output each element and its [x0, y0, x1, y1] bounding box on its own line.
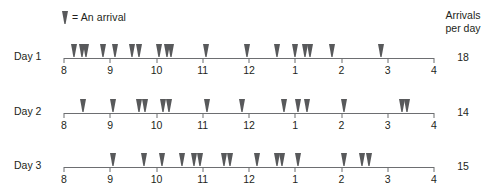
- timeline-axis-2: 891011121234: [64, 93, 434, 139]
- arrival-marker-icon: [341, 99, 347, 112]
- arrival-marker-icon: [254, 153, 260, 166]
- arrivals-count-1: 18: [438, 51, 488, 64]
- arrival-marker-icon: [71, 44, 77, 57]
- arrival-marker-icon: [359, 153, 365, 166]
- axis-tick-label: 10: [151, 119, 163, 132]
- arrival-marker-icon: [136, 99, 142, 112]
- axis-tick: [202, 167, 203, 172]
- axis-tick: [156, 167, 157, 172]
- arrival-marker-icon: [244, 44, 250, 57]
- axis-tick: [387, 113, 388, 118]
- arrival-marker-icon: [168, 44, 174, 57]
- axis-tick: [64, 167, 65, 172]
- axis-tick-label: 2: [339, 119, 345, 132]
- arrivals-count-2: 14: [438, 106, 488, 119]
- axis-tick: [387, 58, 388, 63]
- axis-tick-label: 12: [243, 119, 255, 132]
- arrival-marker-icon: [136, 44, 142, 57]
- arrival-marker-icon: [197, 153, 203, 166]
- axis-tick: [295, 58, 296, 63]
- legend-label: = An arrival: [72, 11, 126, 23]
- axis-tick: [110, 113, 111, 118]
- arrival-marker-icon: [295, 99, 301, 112]
- arrival-marker-icon: [141, 153, 147, 166]
- axis-tick: [341, 58, 342, 63]
- axis-tick: [249, 167, 250, 172]
- arrival-marker-icon: [129, 44, 135, 57]
- arrival-marker-icon: [239, 99, 245, 112]
- day-label-2: Day 2: [14, 105, 60, 118]
- axis-tick-label: 3: [385, 64, 391, 77]
- arrival-marker-icon: [142, 99, 148, 112]
- axis-tick: [156, 113, 157, 118]
- arrival-marker-icon: [304, 99, 310, 112]
- axis-tick-label: 9: [107, 64, 113, 77]
- arrival-marker-icon: [80, 99, 86, 112]
- axis-tick-label: 10: [151, 64, 163, 77]
- axis-tick-label: 4: [431, 64, 437, 77]
- axis-tick: [434, 58, 435, 63]
- arrival-marker-icon: [274, 44, 280, 57]
- arrival-marker-icon: [307, 44, 313, 57]
- axis-tick-label: 4: [431, 119, 437, 132]
- arrival-marker-icon: [110, 99, 116, 112]
- axis-tick-label: 9: [107, 173, 113, 186]
- axis-tick: [64, 58, 65, 63]
- arrival-marker-icon: [159, 153, 165, 166]
- axis-tick-label: 1: [292, 173, 298, 186]
- axis-tick: [434, 113, 435, 118]
- axis-tick: [341, 113, 342, 118]
- timeline-axis-3: 891011121234: [64, 147, 434, 193]
- arrivals-header-line1: Arrivals: [438, 9, 488, 22]
- arrival-marker-icon: [156, 44, 162, 57]
- axis-tick-label: 9: [107, 119, 113, 132]
- axis-tick: [249, 58, 250, 63]
- axis-tick: [110, 58, 111, 63]
- day-row-2: Day 2 891011121234 14: [0, 93, 488, 139]
- axis-tick: [110, 167, 111, 172]
- axis-tick-label: 3: [385, 119, 391, 132]
- arrival-marker-icon: [179, 153, 185, 166]
- axis-tick-label: 11: [197, 119, 208, 132]
- arrival-marker-icon: [100, 44, 106, 57]
- axis-tick-label: 12: [243, 173, 255, 186]
- arrivals-timeline-chart: = An arrival Arrivals per day Day 1 8910…: [0, 0, 488, 194]
- axis-tick-label: 11: [197, 64, 208, 77]
- arrival-marker-icon: [329, 44, 335, 57]
- arrival-marker-icon: [204, 99, 210, 112]
- arrival-marker-icon: [404, 99, 410, 112]
- axis-tick: [295, 113, 296, 118]
- arrival-marker-icon: [227, 153, 233, 166]
- arrivals-count-3: 15: [438, 160, 488, 173]
- axis-tick-label: 11: [197, 173, 208, 186]
- axis-tick-label: 2: [339, 64, 345, 77]
- arrival-marker-icon: [110, 153, 116, 166]
- axis-tick: [64, 113, 65, 118]
- axis-tick-label: 10: [151, 173, 163, 186]
- axis-tick-label: 8: [61, 173, 67, 186]
- arrivals-header-line2: per day: [438, 22, 488, 35]
- arrival-marker-icon: [292, 44, 298, 57]
- arrival-marker-icon: [166, 99, 172, 112]
- axis-tick-label: 2: [339, 173, 345, 186]
- axis-tick-label: 8: [61, 64, 67, 77]
- arrival-marker-icon: [295, 153, 301, 166]
- axis-tick: [156, 58, 157, 63]
- axis-tick-label: 3: [385, 173, 391, 186]
- axis-tick: [249, 113, 250, 118]
- legend: = An arrival: [62, 10, 126, 23]
- day-row-3: Day 3 891011121234 15: [0, 147, 488, 193]
- arrival-marker-icon: [366, 153, 372, 166]
- arrival-marker-icon: [62, 11, 68, 24]
- axis-tick-label: 1: [292, 64, 298, 77]
- arrival-marker-icon: [203, 44, 209, 57]
- arrival-marker-icon: [281, 99, 287, 112]
- axis-tick-label: 8: [61, 119, 67, 132]
- arrival-marker-icon: [341, 153, 347, 166]
- axis-tick: [202, 58, 203, 63]
- axis-tick-label: 12: [243, 64, 255, 77]
- arrival-marker-icon: [83, 44, 89, 57]
- axis-tick-label: 1: [292, 119, 298, 132]
- axis-tick: [341, 167, 342, 172]
- axis-tick-label: 4: [431, 173, 437, 186]
